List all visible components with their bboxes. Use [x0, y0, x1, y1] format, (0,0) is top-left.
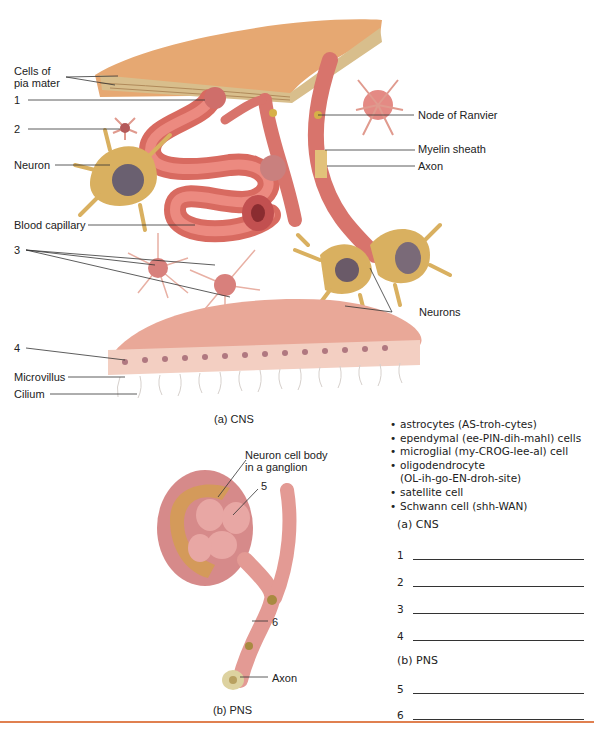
label-2: 2	[14, 123, 20, 135]
term-ependymal: ependymal (ee-PIN-dih-mahl) cells	[390, 432, 581, 446]
label-line: Neuron cell body	[245, 449, 328, 461]
blank-number: 6	[397, 709, 404, 721]
blank-number: 4	[397, 630, 404, 642]
term-oligodendrocyte: oligodendrocyte	[390, 459, 581, 473]
label-6: 6	[272, 616, 278, 628]
blank-line[interactable]	[413, 693, 584, 694]
term-list: astrocytes (AS-troh-cytes) ependymal (ee…	[390, 418, 581, 513]
caption-cns: (a) CNS	[214, 413, 254, 425]
label-cells-of-pia-mater: Cells of pia mater	[14, 65, 60, 89]
blood-capillary	[150, 100, 274, 231]
pia-mater-layer	[95, 19, 382, 103]
footer-rule	[0, 721, 594, 723]
blank-number: 5	[397, 683, 404, 695]
label-3: 3	[14, 244, 20, 256]
answer-blank-1[interactable]: 1	[397, 548, 584, 562]
blank-number: 1	[397, 549, 404, 561]
blank-line[interactable]	[413, 559, 584, 560]
term-satellite-cell: satellite cell	[390, 486, 581, 500]
term-microglial: microglial (my-CROG-lee-al) cell	[390, 445, 581, 459]
answer-blank-2[interactable]: 2	[397, 575, 584, 589]
label-node-of-ranvier: Node of Ranvier	[418, 109, 498, 121]
blank-number: 3	[397, 603, 404, 615]
label-line: pia mater	[14, 77, 60, 89]
blank-line[interactable]	[413, 586, 584, 587]
blank-number: 2	[397, 576, 404, 588]
term-astrocytes: astrocytes (AS-troh-cytes)	[390, 418, 581, 432]
label-axon-pns: Axon	[272, 672, 297, 684]
label-line: Cells of	[14, 65, 60, 77]
label-blood-capillary: Blood capillary	[14, 219, 86, 231]
label-microvillus: Microvillus	[14, 371, 65, 383]
ganglion-illustration	[157, 470, 289, 690]
term-oligodendrocyte-pronunciation: (OL-ih-go-EN-droh-site)	[390, 472, 581, 486]
answer-blank-3[interactable]: 3	[397, 602, 584, 616]
section-heading-cns: (a) CNS	[397, 518, 439, 531]
answer-blank-5[interactable]: 5	[397, 682, 584, 696]
label-1: 1	[14, 94, 20, 106]
answer-blank-6[interactable]: 6	[397, 708, 584, 722]
label-5: 5	[261, 480, 267, 492]
label-myelin-sheath: Myelin sheath	[418, 143, 486, 155]
label-neuron: Neuron	[14, 159, 50, 171]
caption-pns: (b) PNS	[213, 704, 252, 716]
label-neuron-cell-body-ganglion: Neuron cell body in a ganglion	[245, 449, 328, 473]
label-4: 4	[14, 342, 20, 354]
ependymal-layer	[108, 299, 422, 398]
blank-line[interactable]	[413, 613, 584, 614]
label-neurons: Neurons	[419, 306, 461, 318]
label-axon-cns: Axon	[418, 160, 443, 172]
answer-blank-4[interactable]: 4	[397, 629, 584, 643]
label-cilium: Cilium	[14, 388, 45, 400]
label-line: in a ganglion	[245, 461, 328, 473]
section-heading-pns: (b) PNS	[397, 654, 438, 667]
blank-line[interactable]	[413, 719, 584, 720]
term-schwann-cell: Schwann cell (shh-WAN)	[390, 500, 581, 514]
blank-line[interactable]	[413, 640, 584, 641]
